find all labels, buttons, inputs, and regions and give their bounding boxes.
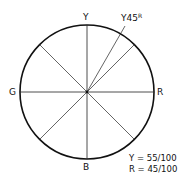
spoke-upper-right (87, 45, 134, 92)
ratio-red: R = 45/100 (129, 164, 177, 175)
spoke-lower-right (87, 92, 134, 139)
label-blue: B (83, 163, 89, 172)
hue-label-y45r: Y45R (121, 13, 142, 23)
ratio-yellow: Y = 55/100 (129, 153, 177, 164)
spoke-upper-left (40, 45, 87, 92)
label-yellow: Y (83, 13, 89, 22)
center-point (86, 91, 89, 94)
label-green: G (9, 88, 16, 97)
spoke-lower-left (40, 92, 87, 139)
hue-label-base: Y45 (121, 13, 138, 23)
hue-label-suffix: R (138, 12, 142, 19)
label-red: R (157, 88, 163, 97)
hue-y45r-line (87, 26, 125, 92)
